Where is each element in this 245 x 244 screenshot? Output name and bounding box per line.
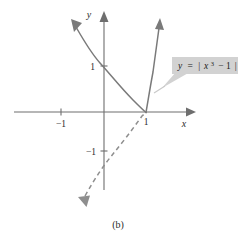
axes-group — [14, 11, 196, 190]
y-axis-arrowhead — [100, 11, 109, 22]
dashed-curve-arrowhead — [78, 196, 90, 208]
equation-callout: y = | x 3 − 1 | — [154, 57, 238, 93]
callout-minus-one: − 1 — [218, 61, 231, 71]
callout-base: x — [203, 61, 209, 71]
y-tick-label-1: 1 — [90, 62, 95, 72]
curve-solid-right-branch — [146, 28, 159, 113]
x-axis-label: x — [181, 118, 187, 129]
figure-caption: (b) — [112, 219, 124, 231]
dashed-curve-group — [78, 112, 147, 207]
y-tick-label-minus-1: −1 — [86, 147, 96, 157]
x-tick-label-1: 1 — [144, 117, 149, 127]
callout-exponent: 3 — [211, 60, 214, 67]
curve-solid-left-branch — [76, 27, 146, 113]
graph-svg: y x −1 1 1 −1 y — [0, 0, 245, 244]
x-axis-arrowhead — [186, 108, 196, 117]
callout-lhs: y — [177, 61, 183, 71]
callout-tail — [162, 72, 190, 88]
solid-curve-left-arrowhead — [71, 19, 82, 32]
callout-bar-open: | — [198, 61, 200, 71]
y-axis-label: y — [86, 9, 92, 20]
solid-curve-right-arrowhead — [155, 18, 164, 30]
callout-equals: = — [188, 61, 193, 71]
x-tick-label-minus-1: −1 — [56, 119, 66, 129]
callout-bar-close: | — [235, 61, 237, 71]
solid-curve-group — [71, 18, 164, 113]
figure-container: y x −1 1 1 −1 y — [0, 0, 245, 244]
callout-leader-line — [154, 86, 165, 93]
